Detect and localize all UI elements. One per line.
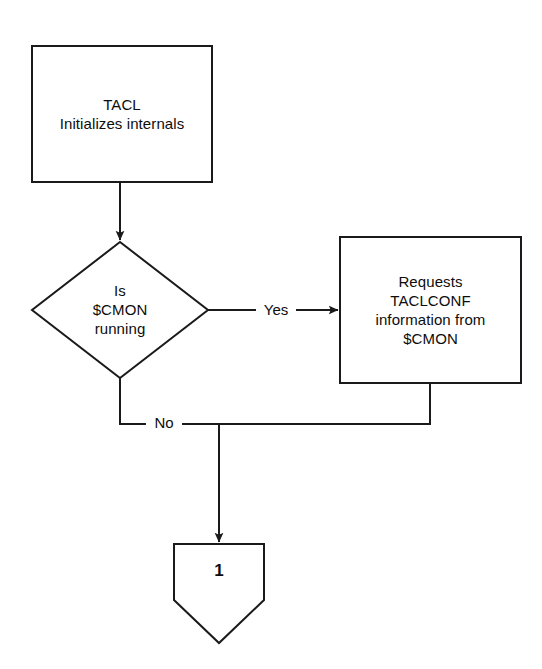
edge-label-yes: Yes xyxy=(256,301,296,318)
decision-cmon-running[interactable] xyxy=(32,242,208,378)
process-request-taclconf[interactable] xyxy=(340,237,521,383)
process-tacl-init[interactable] xyxy=(32,46,212,182)
connector-one[interactable] xyxy=(174,544,264,643)
edge-label-no: No xyxy=(146,414,182,431)
flowchart-canvas: TACL Initializes internals Is $CMON runn… xyxy=(0,0,542,669)
edge-taclconf-return xyxy=(219,383,430,424)
